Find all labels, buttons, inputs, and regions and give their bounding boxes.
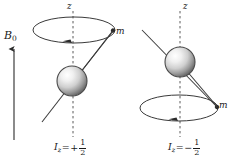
diagram-vector-layer xyxy=(0,0,237,163)
caption-subscript-right: z xyxy=(172,146,175,154)
caption-variable-left: Iz xyxy=(54,142,61,153)
caption-denominator-right: 2 xyxy=(193,148,200,158)
caption-fraction-right: 1 2 xyxy=(193,139,200,157)
nucleus-sphere-left xyxy=(57,66,87,96)
caption-sign-left: + xyxy=(70,143,78,153)
z-axis-label-right: z xyxy=(183,2,187,11)
spin-state-caption-right: Iz = − 1 2 xyxy=(168,139,200,157)
caption-variable-right: Iz xyxy=(168,142,175,153)
caption-fraction-left: 1 2 xyxy=(79,139,86,157)
b0-subscript: 0 xyxy=(12,34,17,43)
caption-equals-right: = xyxy=(176,143,184,153)
spin-state-caption-left: Iz = + 1 2 xyxy=(54,139,86,157)
z-axis-label-left: z xyxy=(67,2,71,11)
spin-precession-diagram: B0 z z m m Iz = + 1 2 Iz = − 1 2 xyxy=(0,0,237,163)
b0-field-label: B0 xyxy=(4,30,17,43)
caption-sign-right: − xyxy=(184,143,192,153)
caption-subscript-left: z xyxy=(58,146,61,154)
magnetic-moment-label-right: m xyxy=(219,101,228,110)
caption-numerator-left: 1 xyxy=(79,139,86,148)
caption-denominator-left: 2 xyxy=(79,148,86,158)
caption-numerator-right: 1 xyxy=(193,139,200,148)
precession-cone-circle-left xyxy=(33,17,115,43)
magnetic-moment-label-left: m xyxy=(116,27,125,36)
nucleus-sphere-right xyxy=(165,47,195,77)
precession-cone-circle-right xyxy=(140,95,218,121)
caption-equals-left: = xyxy=(62,143,70,153)
